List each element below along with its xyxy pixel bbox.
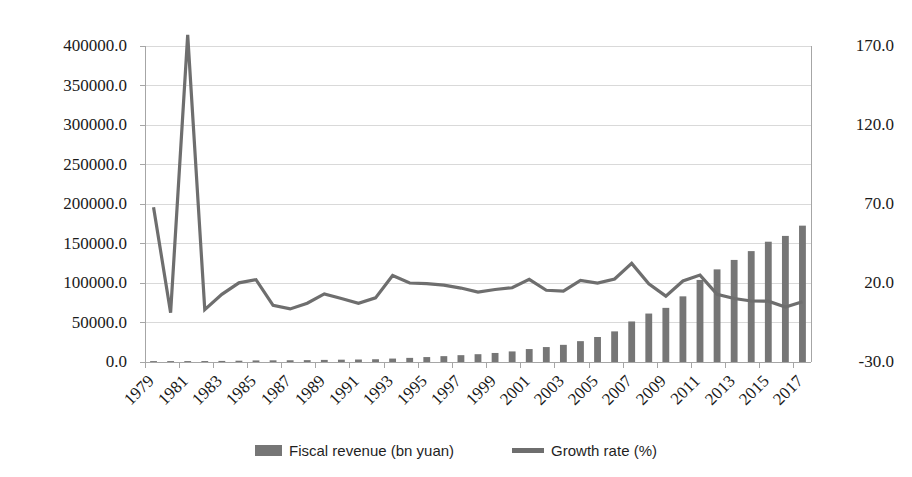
x-axis-labels: 1979198119831985198719891991199319951997… [0, 0, 912, 477]
chart-container: 0.050000.0100000.0150000.0200000.0250000… [0, 0, 912, 477]
chart-legend: Fiscal revenue (bn yuan) Growth rate (%) [0, 436, 912, 464]
legend-item-fiscal-revenue[interactable]: Fiscal revenue (bn yuan) [255, 442, 454, 459]
legend-item-growth-rate[interactable]: Growth rate (%) [512, 442, 657, 459]
legend-label-growth-rate: Growth rate (%) [551, 442, 657, 459]
bar-swatch-icon [255, 445, 282, 456]
legend-label-fiscal-revenue: Fiscal revenue (bn yuan) [289, 442, 454, 459]
line-swatch-icon [512, 448, 544, 453]
